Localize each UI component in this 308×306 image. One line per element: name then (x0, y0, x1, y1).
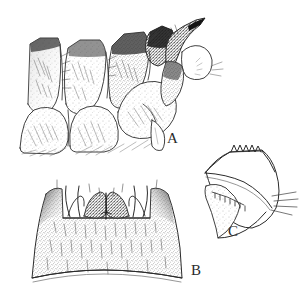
segment-plate-7 (70, 106, 119, 152)
illustration-canvas (0, 0, 308, 306)
panel-label-b: B (191, 263, 202, 278)
segment-plate-1 (28, 38, 61, 114)
panel-label-a: A (167, 131, 178, 146)
panel-label-c: C (228, 224, 239, 239)
figure-plate: A B C (0, 0, 308, 306)
